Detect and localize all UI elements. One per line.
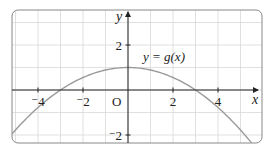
origin-label: O	[112, 94, 121, 109]
x-tick-label: 2	[170, 94, 177, 109]
x-tick-label: ⁻2	[76, 94, 89, 109]
plot-frame	[12, 10, 262, 143]
x-tick-label: 4	[215, 94, 222, 109]
y-axis-label: y	[114, 9, 123, 24]
function-graph: ⁻4⁻2242⁻2 x y O y = g(x)	[0, 0, 270, 150]
grid-lines	[0, 0, 270, 150]
x-tick-label: ⁻4	[31, 94, 45, 109]
function-label: y = g(x)	[141, 49, 185, 64]
y-tick-label: ⁻2	[109, 128, 122, 143]
x-axis-label: x	[251, 92, 259, 107]
y-tick-label: 2	[116, 38, 123, 53]
